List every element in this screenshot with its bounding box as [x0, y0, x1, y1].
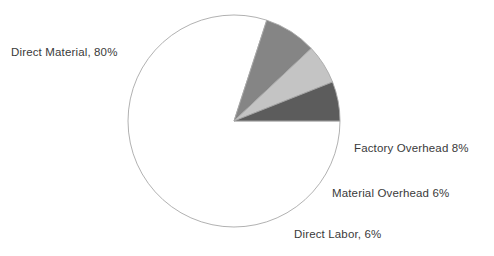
pie-chart-figure: Direct Material, 80% Factory Overhead 8%… [0, 0, 494, 256]
pie-chart-canvas [0, 0, 494, 256]
pie-label-direct-material: Direct Material, 80% [11, 45, 118, 59]
pie-label-factory-overhead: Factory Overhead 8% [354, 141, 469, 155]
pie-slices-group [128, 15, 340, 227]
pie-label-material-overhead: Material Overhead 6% [332, 186, 449, 200]
pie-label-direct-labor: Direct Labor, 6% [294, 227, 381, 241]
